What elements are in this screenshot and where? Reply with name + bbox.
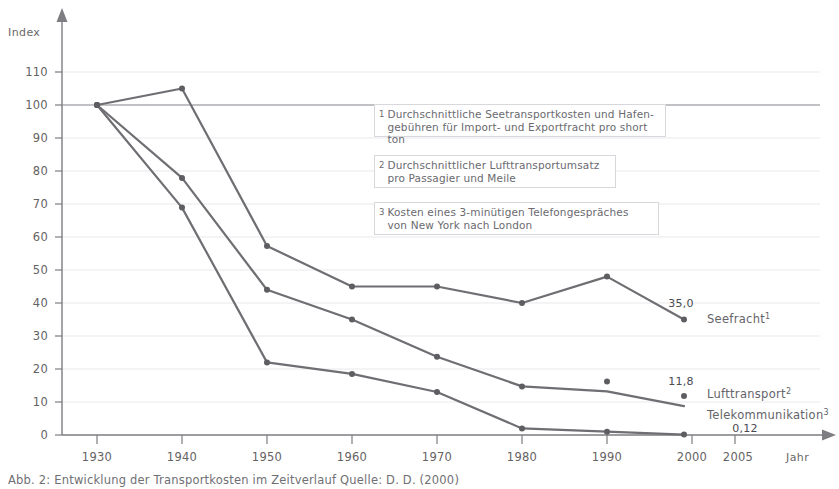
y-tick-label: 0 [40,428,48,442]
footnote-text-2: Durchschnittlicher Lufttransportumsatz p… [387,159,599,184]
series-label-telekommunikation: Telekommunikation3 [706,408,829,423]
footnote-box-1: 1 Durchschnittliche Seetransportkosten u… [374,104,666,137]
y-tick-label: 50 [33,263,48,277]
y-tick-label: 110 [25,65,48,79]
x-tick-label: 2005 [723,450,753,464]
x-tick-labels: 1930 1940 1950 1960 1970 1980 1990 2000 … [82,450,753,464]
y-tick-labels: 110 100 90 80 70 60 50 40 30 20 10 0 [25,65,48,442]
y-tick-label: 30 [33,329,48,343]
footnote-marker-3: 3 [379,206,387,218]
y-tick-label: 40 [33,296,48,310]
footnote-marker-1: 1 [379,108,387,120]
footnote-box-2: 2 Durchschnittlicher Lufttransportumsatz… [374,155,616,188]
x-tick-label: 1980 [507,450,537,464]
footnote-text-1: Durchschnittliche Seetransportkosten und… [387,108,659,146]
footnote-box-3: 3 Kosten eines 3-minütigen Telefongesprä… [374,202,659,235]
series-lufttransport: 11,8 Lufttransport2 [94,102,791,406]
x-tick-label: 1940 [167,450,197,464]
figure-caption: Abb. 2: Entwicklung der Transportkosten … [8,473,828,487]
x-tick-label: 1960 [337,450,367,464]
y-tick-label: 20 [33,362,48,376]
series-label-seefracht: Seefracht1 [707,312,771,327]
x-tick-label: 1930 [82,450,112,464]
y-axis-title: Index [8,26,40,39]
x-axis-title: Jahr [785,451,809,464]
footnote-marker-2: 2 [379,159,387,171]
series-label-lufttransport: Lufttransport2 [707,387,791,402]
x-tick-label: 1950 [252,450,282,464]
y-tick-label: 90 [33,131,48,145]
y-tick-label: 60 [33,230,48,244]
footnote-text-3: Kosten eines 3-minütigen Telefongespräch… [387,206,628,231]
series-end-value-telekommunikation: 0,12 [732,422,758,435]
y-tick-label: 70 [33,197,48,211]
y-tick-label: 10 [33,395,48,409]
chart-figure: 110 100 90 80 70 60 50 40 30 20 10 0 Ind… [0,0,839,489]
y-tick-label: 100 [25,98,48,112]
series-end-value-seefracht: 35,0 [668,297,694,310]
x-tick-label: 1970 [422,450,452,464]
x-tick-label: 2000 [677,450,707,464]
series-end-value-lufttransport: 11,8 [668,375,694,388]
line-chart-canvas: 110 100 90 80 70 60 50 40 30 20 10 0 Ind… [0,0,839,489]
x-axis [62,430,836,445]
x-tick-label: 1990 [592,450,622,464]
y-tick-label: 80 [33,164,48,178]
